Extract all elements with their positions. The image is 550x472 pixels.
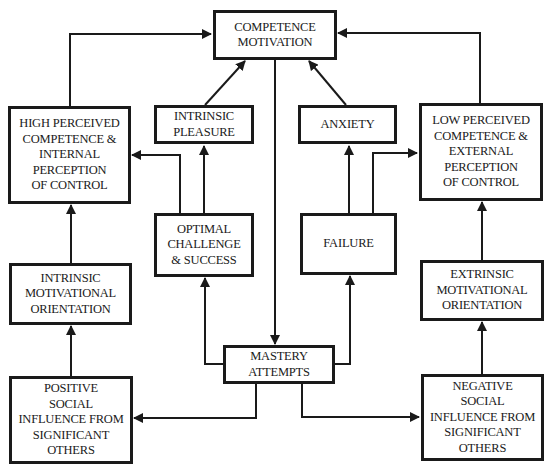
node-intrinsic-motivational-orientation: INTRINSIC MOTIVATIONAL ORIENTATION xyxy=(9,263,132,325)
arrow-mastery-to-positive-social xyxy=(134,383,256,418)
node-label: POSITIVE SOCIAL INFLUENCE FROM SIGNIFICA… xyxy=(18,381,123,459)
node-competence-motivation: COMPETENCE MOTIVATION xyxy=(213,10,337,60)
arrow-pleasure-to-competence xyxy=(205,61,245,105)
node-label: OPTIMAL CHALLENGE & SUCCESS xyxy=(167,222,240,269)
arrow-mastery-to-optimal xyxy=(205,278,223,364)
node-label: HIGH PERCEIVED COMPETENCE & INTERNAL PER… xyxy=(19,116,119,194)
node-label: INTRINSIC PLEASURE xyxy=(173,109,235,140)
arrow-failure-to-low-perceived xyxy=(373,153,417,213)
node-low-perceived-competence: LOW PERCEIVED COMPETENCE & EXTERNAL PERC… xyxy=(419,103,543,201)
node-label: MASTERY ATTEMPTS xyxy=(248,349,310,380)
node-negative-social-influence: NEGATIVE SOCIAL INFLUENCE FROM SIGNIFICA… xyxy=(421,374,544,461)
arrow-high-perceived-to-competence xyxy=(70,34,211,106)
node-anxiety: ANXIETY xyxy=(298,105,397,144)
node-extrinsic-motivational-orientation: EXTRINSIC MOTIVATIONAL ORIENTATION xyxy=(420,260,544,321)
node-label: EXTRINSIC MOTIVATIONAL ORIENTATION xyxy=(436,267,527,314)
node-label: ANXIETY xyxy=(320,117,374,133)
node-label: NEGATIVE SOCIAL INFLUENCE FROM SIGNIFICA… xyxy=(430,379,535,457)
node-mastery-attempts: MASTERY ATTEMPTS xyxy=(223,345,335,384)
node-failure: FAILURE xyxy=(300,213,397,275)
arrow-mastery-to-negative-social xyxy=(302,383,419,417)
arrow-optimal-to-high-perceived xyxy=(132,155,180,213)
arrow-mastery-to-failure xyxy=(334,276,350,364)
node-intrinsic-pleasure: INTRINSIC PLEASURE xyxy=(154,105,254,144)
node-label: LOW PERCEIVED COMPETENCE & EXTERNAL PERC… xyxy=(432,113,530,191)
node-label: FAILURE xyxy=(323,236,373,252)
node-optimal-challenge: OPTIMAL CHALLENGE & SUCCESS xyxy=(154,213,254,277)
arrow-anxiety-to-competence xyxy=(309,61,346,105)
node-high-perceived-competence: HIGH PERCEIVED COMPETENCE & INTERNAL PER… xyxy=(8,106,131,204)
node-label: COMPETENCE MOTIVATION xyxy=(234,20,315,51)
arrow-low-perceived-to-competence xyxy=(338,33,480,103)
node-positive-social-influence: POSITIVE SOCIAL INFLUENCE FROM SIGNIFICA… xyxy=(9,376,133,464)
node-label: INTRINSIC MOTIVATIONAL ORIENTATION xyxy=(25,271,116,318)
